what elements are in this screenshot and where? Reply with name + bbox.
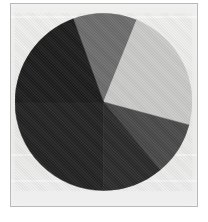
pie-slice-group bbox=[15, 13, 192, 190]
screenshot-root bbox=[0, 0, 208, 222]
figure-frame bbox=[10, 3, 198, 207]
pie-slice bbox=[15, 102, 104, 191]
pie-chart bbox=[15, 13, 192, 191]
pie-chart-svg bbox=[15, 13, 192, 191]
